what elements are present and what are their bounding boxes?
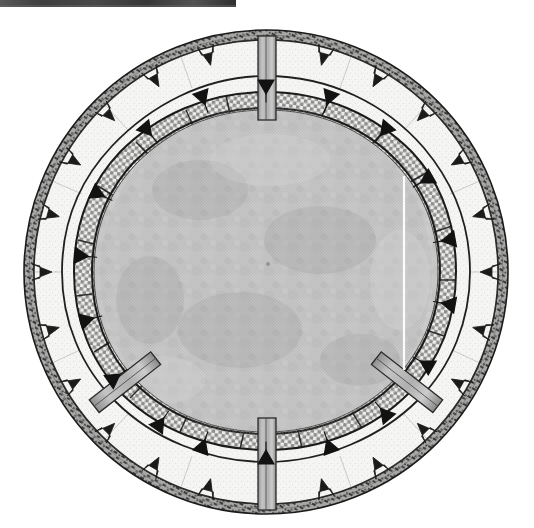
circular-plan-drawing: Circular structure plan Scanned line dra… xyxy=(0,0,534,528)
spoke-top xyxy=(258,36,276,120)
top-scan-bar-artifact xyxy=(0,0,236,7)
figure-canvas: Circular structure plan Scanned line dra… xyxy=(0,0,534,528)
